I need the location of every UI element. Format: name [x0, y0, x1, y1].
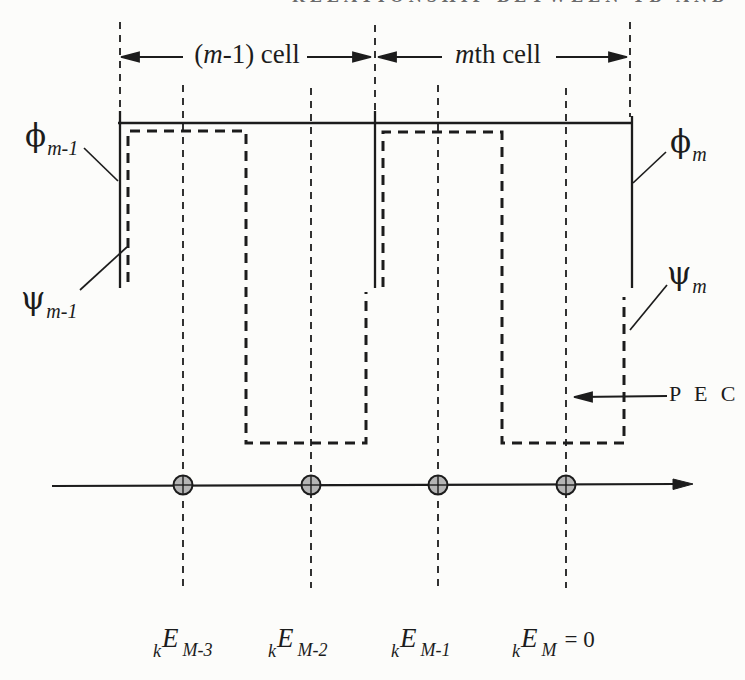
node-label-EM1: kEM-1 [391, 625, 459, 660]
cell-right-italic: m [455, 39, 475, 69]
pec-arrowhead-icon [574, 393, 592, 402]
node-label-EM2: kEM-2 [268, 625, 336, 660]
psi-prev-label: ψm-1 [21, 283, 77, 321]
presubscript-k: k [391, 641, 399, 661]
subscript-M-2: M-2 [298, 640, 328, 660]
right-cell-arrowhead-right-icon [609, 53, 627, 62]
psi-prev-subscript: m-1 [46, 300, 77, 322]
psi-m-label: ψm [667, 258, 707, 296]
phi-prev-subscript: m-1 [47, 137, 78, 159]
presubscript-k: k [512, 641, 520, 661]
phi-symbol: ϕ [25, 117, 46, 153]
subscript-M-1: M-1 [421, 640, 451, 660]
psi-m-pointer-line [630, 285, 667, 330]
cell-left-italic: m [203, 39, 223, 69]
phi-symbol: ϕ [670, 123, 691, 159]
symbol-E: E [277, 623, 294, 653]
left-cell-arrowhead-right-icon [353, 53, 371, 62]
presubscript-k: k [268, 641, 276, 661]
psi-symbol: ψ [21, 280, 45, 316]
symbol-E: E [521, 623, 538, 653]
suffix-equals-zero: = 0 [565, 627, 595, 652]
phi-prev-label: ϕm-1 [25, 120, 78, 158]
phi-m-pointer-line [633, 152, 666, 183]
cell-left-pre: ( [194, 39, 203, 69]
figure-page: RELATIONSHIP BETWEEN TD AND FD [0, 0, 745, 680]
symbol-E: E [400, 623, 417, 653]
pec-label: P E C [669, 383, 740, 405]
psi-m-subscript: m [692, 275, 706, 297]
subscript-M-3: M-3 [183, 640, 213, 660]
psi-symbol: ψ [667, 255, 691, 291]
phi-m-label: ϕm [670, 126, 707, 164]
node-marker-m0 [557, 476, 576, 495]
cell-left-rest: -1) cell [223, 39, 300, 69]
node-label-EM3: kEM-3 [153, 625, 221, 660]
presubscript-k: k [153, 641, 161, 661]
left-cell-arrowhead-left-icon [121, 53, 139, 62]
subscript-M: M [542, 640, 557, 660]
cell-span-label-left: (m-1) cell [163, 41, 331, 68]
node-marker-m3 [174, 476, 193, 495]
axis-line [52, 484, 676, 486]
phi-prev-pointer-line [84, 148, 118, 181]
diagram-canvas [0, 0, 745, 680]
node-label-EM: kEM= 0 [512, 625, 595, 660]
node-marker-m2 [302, 476, 321, 495]
phi-m-subscript: m [692, 143, 706, 165]
psi-prev-curve [128, 131, 366, 443]
cell-span-label-right: mth cell [420, 41, 576, 68]
symbol-E: E [162, 623, 179, 653]
node-marker-m1 [429, 476, 448, 495]
right-cell-arrowhead-left-icon [378, 53, 396, 62]
cell-right-rest: th cell [474, 39, 541, 69]
axis-arrowhead-icon [673, 479, 693, 490]
